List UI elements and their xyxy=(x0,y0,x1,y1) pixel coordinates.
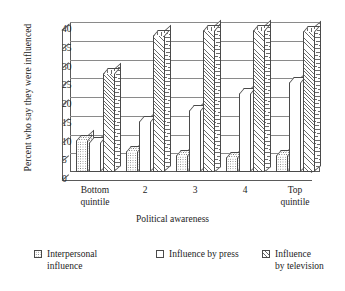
bar-plain xyxy=(189,110,201,172)
bar-plain xyxy=(289,82,301,172)
bar-group xyxy=(120,22,170,172)
bar-hatch xyxy=(303,31,315,172)
bar-dots xyxy=(126,151,138,172)
bar-dots xyxy=(276,155,288,172)
legend-label-line: Influence by press xyxy=(169,248,239,260)
legend-label-line: by television xyxy=(275,260,324,272)
bar-plain xyxy=(89,142,101,172)
legend-label: Influence by press xyxy=(169,248,239,260)
legend-swatch-dots xyxy=(34,250,42,258)
legend-label-line: Influence xyxy=(275,248,324,260)
bar-hatch xyxy=(103,73,115,172)
x-axis-category-label: Topquintile xyxy=(260,185,330,208)
plot-area: 0510152025303540 xyxy=(62,22,320,180)
legend-item[interactable]: Influence by press xyxy=(156,248,239,260)
bar-plain xyxy=(139,121,151,172)
category-label-line: quintile xyxy=(60,197,130,209)
bar-group xyxy=(170,22,220,172)
chart-legend: InterpersonalinfluenceInfluence by press… xyxy=(34,248,334,288)
category-label-line: quintile xyxy=(260,197,330,209)
bar-side-face xyxy=(315,21,321,171)
legend-label-line: Interpersonal xyxy=(47,248,97,260)
bar-group xyxy=(270,22,320,172)
y-axis-title: Percent who say they were influenced xyxy=(23,18,34,178)
bar-hatch xyxy=(253,30,265,173)
bar-dots xyxy=(176,155,188,172)
bar-chart-figure: Percent who say they were influenced 051… xyxy=(0,0,345,291)
legend-item[interactable]: Interpersonalinfluence xyxy=(34,248,97,272)
x-axis-category-labels: Bottomquintile234Topquintile xyxy=(62,185,320,213)
legend-swatch-hatch xyxy=(262,250,270,258)
bar-dots xyxy=(76,140,88,172)
category-label-line: Top xyxy=(260,185,330,197)
bar-dots xyxy=(226,157,238,172)
bar-series-container xyxy=(62,22,320,181)
bar-group xyxy=(70,22,120,172)
legend-swatch-plain xyxy=(156,250,164,258)
bar-hatch xyxy=(153,35,165,172)
bar-group xyxy=(220,22,270,172)
bar-hatch xyxy=(203,30,215,173)
legend-label: Influenceby television xyxy=(275,248,324,272)
legend-label: Interpersonalinfluence xyxy=(47,248,97,272)
legend-label-line: influence xyxy=(47,260,97,272)
bar-plain xyxy=(239,93,251,172)
x-axis-title: Political awareness xyxy=(0,214,345,224)
legend-item[interactable]: Influenceby television xyxy=(262,248,324,272)
